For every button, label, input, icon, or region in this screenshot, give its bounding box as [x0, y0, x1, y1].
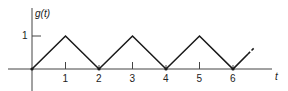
- zero-point: [164, 67, 167, 70]
- zero-point: [231, 67, 234, 70]
- triangle-wave-chart: g(t) 1 1 2 3 4 5 6 t: [0, 0, 288, 91]
- x-tick-label-4: 4: [163, 73, 169, 84]
- x-tick-label-1: 1: [63, 73, 69, 84]
- x-tick-label-6: 6: [230, 73, 236, 84]
- y-axis-label: g(t): [35, 8, 50, 19]
- x-axis-label: t: [275, 71, 279, 82]
- zero-point: [97, 67, 100, 70]
- triangle-wave-line: [32, 36, 248, 69]
- y-tick-label-1: 1: [22, 30, 28, 41]
- x-tick-label-5: 5: [197, 73, 203, 84]
- zero-point: [30, 67, 33, 70]
- triangle-wave-continuation: [248, 47, 255, 54]
- x-tick-label-2: 2: [96, 73, 102, 84]
- x-tick-label-3: 3: [130, 73, 136, 84]
